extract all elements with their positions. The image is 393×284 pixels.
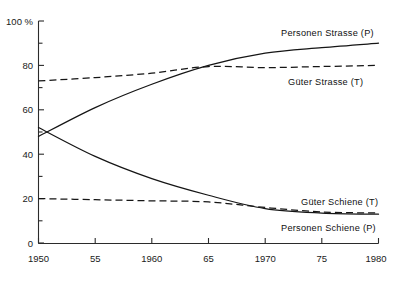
series-label-personen-strasse: Personen Strasse (P) xyxy=(281,28,374,38)
series-label-gueter-schiene: Güter Schiene (T) xyxy=(301,197,378,207)
x-tick-label-1970: 1970 xyxy=(255,253,276,264)
line-chart: 100 % 80 60 40 20 0 1950 55 1960 65 1970… xyxy=(0,0,393,284)
series-line-personen-strasse xyxy=(39,43,379,136)
y-axis-unit-label: 100 % xyxy=(6,16,33,27)
y-axis xyxy=(39,21,45,244)
chart-figure: 100 % 80 60 40 20 0 1950 55 1960 65 1970… xyxy=(0,0,393,284)
x-tick-label-1950: 1950 xyxy=(28,253,49,264)
x-tick-label-1955: 55 xyxy=(90,253,101,264)
y-tick-label-20: 20 xyxy=(22,193,33,204)
x-tick-label-1960: 1960 xyxy=(141,253,162,264)
series-label-gueter-strasse: Güter Strasse (T) xyxy=(288,77,363,87)
x-tick-label-1980: 1980 xyxy=(365,253,386,264)
y-tick-label-0: 0 xyxy=(28,238,33,249)
series-label-personen-schiene: Personen Schiene (P) xyxy=(281,223,376,233)
y-tick-label-60: 60 xyxy=(22,104,33,115)
x-tick-label-1975: 75 xyxy=(317,253,328,264)
y-tick-label-40: 40 xyxy=(22,149,33,160)
x-axis xyxy=(39,238,379,244)
series-group xyxy=(39,43,379,214)
y-tick-label-80: 80 xyxy=(22,60,33,71)
x-tick-label-1965: 65 xyxy=(203,253,214,264)
